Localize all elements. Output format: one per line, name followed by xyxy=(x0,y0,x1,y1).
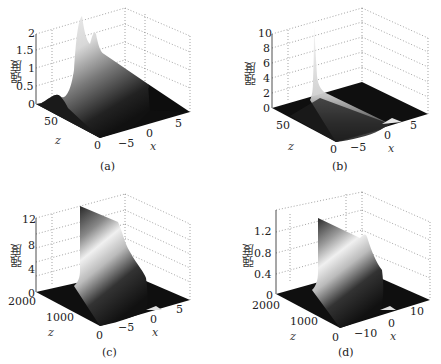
caption-b: (b) xyxy=(332,160,348,173)
ytick-a-0: 0 xyxy=(28,99,35,110)
ytick-a-2: 2 xyxy=(28,28,35,39)
zlabel-d: z xyxy=(290,330,296,343)
ytick-c-4: 4 xyxy=(28,264,35,275)
xtick-a-m5: −5 xyxy=(118,138,134,149)
ztick-d-2000: 2000 xyxy=(252,300,280,311)
ylabel-a: 强度 xyxy=(8,60,25,84)
xtick-a-5: 5 xyxy=(175,118,182,129)
ylabel-b: 强度 xyxy=(242,62,259,86)
ytick-b-8: 8 xyxy=(263,43,270,54)
ylabel-c: 强度 xyxy=(8,244,25,268)
xtick-a-0: 0 xyxy=(146,128,153,139)
panel-c: 12 8 4 0 强度 2000 1000 0 z −5 0 5 x (c) xyxy=(0,182,220,364)
ytick-a-1: 1 xyxy=(28,63,35,74)
ytick-b-6: 6 xyxy=(263,58,270,69)
ytick-b-0: 0 xyxy=(263,103,270,114)
ztick-b-50: 50 xyxy=(276,120,290,131)
xtick-b-m5: −5 xyxy=(350,142,366,153)
ytick-b-2: 2 xyxy=(263,88,270,99)
zlabel-b: z xyxy=(288,140,294,153)
xlabel-d: x xyxy=(390,330,396,343)
ztick-d-0: 0 xyxy=(332,332,339,343)
xlabel-a: x xyxy=(150,140,156,153)
zlabel-a: z xyxy=(55,134,61,147)
xtick-c-5: 5 xyxy=(176,304,183,315)
xtick-b-0: 0 xyxy=(384,130,391,141)
ztick-a-50: 50 xyxy=(44,116,58,127)
ztick-c-1000: 1000 xyxy=(46,312,74,323)
ytick-c-8: 8 xyxy=(28,240,35,251)
caption-d: (d) xyxy=(338,346,354,359)
xtick-d-0: 0 xyxy=(388,318,395,329)
xtick-b-5: 5 xyxy=(410,120,417,131)
xtick-d-m10: −10 xyxy=(354,328,377,339)
xlabel-c: x xyxy=(152,326,158,339)
ztick-a-0: 0 xyxy=(94,140,101,151)
xtick-c-0: 0 xyxy=(150,314,157,325)
ylabel-d: 强度 xyxy=(240,244,257,268)
caption-a: (a) xyxy=(100,160,115,173)
xlabel-b: x xyxy=(388,142,394,155)
panel-d: 1.2 0.8 0.4 0 强度 2000 1000 0 z −10 0 10 … xyxy=(220,182,440,364)
surface-plot-d xyxy=(220,182,440,364)
ytick-d-0.4: 0.4 xyxy=(254,269,272,280)
ytick-d-1.2: 1.2 xyxy=(254,226,272,237)
ztick-b-0: 0 xyxy=(330,144,337,155)
zlabel-c: z xyxy=(48,326,54,339)
ytick-b-10: 10 xyxy=(258,28,272,39)
ytick-b-4: 4 xyxy=(263,73,270,84)
xtick-d-10: 10 xyxy=(410,306,424,317)
ztick-d-1000: 1000 xyxy=(290,316,318,327)
panel-a: 2 1.5 1 0.5 0 强度 50 0 z −5 0 5 x (a) xyxy=(0,0,220,182)
caption-c: (c) xyxy=(102,346,117,359)
ytick-a-1.5: 1.5 xyxy=(16,45,34,56)
xtick-c-m5: −5 xyxy=(118,322,134,333)
ztick-c-2000: 2000 xyxy=(8,296,36,307)
ytick-c-12: 12 xyxy=(22,214,36,225)
ztick-c-0: 0 xyxy=(96,330,103,341)
panel-b: 10 8 6 4 2 0 强度 50 0 z −5 0 5 x (b) xyxy=(220,0,440,182)
